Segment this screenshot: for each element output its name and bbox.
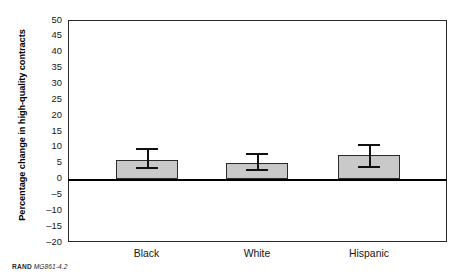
error-bar-cap-lower-black [136, 167, 158, 169]
y-axis-tick-label: 45 [22, 30, 62, 39]
x-axis-label-black: Black [97, 248, 197, 259]
x-axis-label-white: White [207, 248, 307, 259]
y-axis-tick-label: –5 [22, 189, 62, 198]
y-axis-tick-label: –10 [22, 205, 62, 214]
y-axis-tick-label: 0 [22, 173, 62, 182]
figure-container: Percentage change in high-quality contra… [0, 0, 471, 278]
y-axis-tick-label: 15 [22, 126, 62, 135]
y-axis-tick-label: 20 [22, 110, 62, 119]
error-bar-stem-hispanic [369, 144, 371, 166]
y-axis-tick-label: 30 [22, 78, 62, 87]
x-axis-label-hispanic: Hispanic [319, 248, 419, 259]
y-axis-tick-label: 10 [22, 141, 62, 150]
plot-area [68, 20, 447, 242]
error-bar-stem-black [147, 148, 149, 167]
error-bar-cap-upper-black [136, 148, 158, 150]
y-axis-tick-label: 5 [22, 157, 62, 166]
figure-credit: RAND MG861-4.2 [12, 263, 68, 270]
error-bar-cap-lower-white [246, 169, 268, 171]
error-bar-cap-upper-white [246, 153, 268, 155]
y-axis-tick-label: 35 [22, 62, 62, 71]
y-axis-tick-label: 40 [22, 46, 62, 55]
credit-figure-id: MG861-4.2 [34, 263, 68, 270]
error-bar-stem-white [257, 153, 259, 169]
error-bar-cap-lower-hispanic [358, 166, 380, 168]
y-axis-tick-label: –15 [22, 221, 62, 230]
credit-org: RAND [12, 263, 32, 270]
error-bar-cap-upper-hispanic [358, 144, 380, 146]
y-axis-tick-label: 25 [22, 94, 62, 103]
zero-baseline [68, 179, 447, 181]
y-axis-tick-label: –20 [22, 237, 62, 246]
y-axis-tick-label: 50 [22, 15, 62, 24]
